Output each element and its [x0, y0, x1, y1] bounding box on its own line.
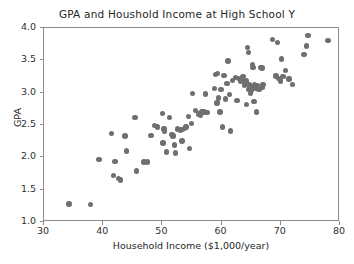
scatter-point	[186, 114, 191, 119]
scatter-point	[214, 100, 219, 105]
scatter-point	[260, 82, 265, 87]
x-tick-label: 30	[28, 225, 58, 236]
y-tick-mark	[40, 189, 44, 190]
chart-title: GPA and Houshold Income at High School Y	[0, 8, 354, 20]
scatter-point	[283, 68, 288, 73]
scatter-point	[220, 124, 225, 129]
scatter-point	[301, 52, 306, 57]
y-axis-label: GPA	[12, 88, 23, 148]
scatter-point	[145, 159, 150, 164]
scatter-point	[215, 71, 220, 76]
scatter-point	[278, 78, 283, 83]
scatter-point	[217, 109, 222, 114]
scatter-point	[66, 201, 71, 206]
scatter-point	[112, 159, 117, 164]
scatter-point	[250, 65, 255, 70]
scatter-point	[122, 133, 127, 138]
scatter-point	[187, 146, 192, 151]
scatter-points-layer	[44, 28, 338, 220]
scatter-point	[286, 76, 291, 81]
y-tick-mark	[40, 221, 44, 222]
scatter-point	[164, 149, 169, 154]
scatter-point	[160, 111, 165, 116]
x-tick-mark	[221, 221, 222, 225]
scatter-point	[160, 140, 165, 145]
scatter-point	[275, 40, 280, 45]
scatter-point	[224, 81, 229, 86]
scatter-point	[279, 56, 284, 61]
x-tick-label: 50	[146, 225, 176, 236]
scatter-point	[305, 33, 310, 38]
scatter-point	[124, 148, 129, 153]
x-tick-mark	[280, 221, 281, 225]
scatter-point	[172, 142, 177, 147]
scatter-point	[212, 86, 217, 91]
scatter-point	[251, 99, 256, 104]
scatter-point	[190, 91, 195, 96]
scatter-point	[96, 157, 101, 162]
x-tick-label: 70	[265, 225, 295, 236]
scatter-point	[234, 98, 239, 103]
scatter-point	[225, 58, 230, 63]
scatter-point	[173, 150, 178, 155]
scatter-point	[218, 87, 223, 92]
scatter-point	[134, 168, 139, 173]
scatter-chart-figure: GPA and Houshold Income at High School Y…	[0, 0, 354, 264]
scatter-point	[221, 73, 226, 78]
scatter-point	[216, 95, 221, 100]
x-tick-mark	[102, 221, 103, 225]
x-tick-label: 60	[206, 225, 236, 236]
scatter-point	[118, 177, 123, 182]
scatter-point	[203, 91, 208, 96]
scatter-point	[179, 138, 184, 143]
scatter-point	[254, 109, 259, 114]
y-tick-mark	[40, 92, 44, 93]
scatter-point	[280, 74, 285, 79]
scatter-point	[167, 115, 172, 120]
y-tick-label: 4.0	[6, 21, 36, 32]
plot-area	[43, 27, 339, 221]
y-tick-mark	[40, 59, 44, 60]
scatter-point	[189, 121, 194, 126]
x-tick-mark	[43, 221, 44, 225]
scatter-point	[223, 96, 228, 101]
scatter-point	[132, 115, 137, 120]
x-axis-label: Household Income ($1,000/year)	[43, 240, 339, 251]
scatter-point	[259, 65, 264, 70]
x-tick-mark	[339, 221, 340, 225]
y-tick-mark	[40, 156, 44, 157]
scatter-point	[183, 124, 188, 129]
scatter-point	[290, 82, 295, 87]
y-tick-label: 1.0	[6, 215, 36, 226]
scatter-point	[109, 131, 114, 136]
x-tick-label: 80	[324, 225, 354, 236]
y-tick-mark	[40, 27, 44, 28]
scatter-point	[228, 128, 233, 133]
scatter-point	[325, 38, 330, 43]
scatter-point	[304, 43, 309, 48]
scatter-point	[170, 133, 175, 138]
scatter-point	[246, 50, 251, 55]
scatter-point	[204, 110, 209, 115]
scatter-point	[88, 202, 93, 207]
scatter-point	[227, 92, 232, 97]
scatter-point	[244, 102, 249, 107]
scatter-point	[148, 133, 153, 138]
y-tick-label: 2.0	[6, 150, 36, 161]
x-tick-mark	[161, 221, 162, 225]
y-tick-mark	[40, 124, 44, 125]
y-tick-label: 1.5	[6, 183, 36, 194]
scatter-point	[162, 129, 167, 134]
y-tick-label: 3.5	[6, 53, 36, 64]
x-tick-label: 40	[87, 225, 117, 236]
scatter-point	[155, 124, 160, 129]
